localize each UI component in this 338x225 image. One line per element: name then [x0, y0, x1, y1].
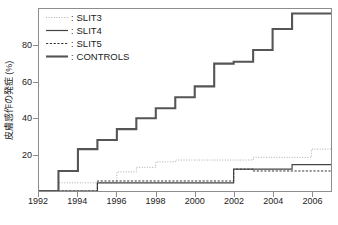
chart-legend: :SLIT3:SLIT4:SLIT5:CONTROLS — [46, 12, 129, 62]
legend-item-slit4[interactable]: :SLIT4 — [46, 25, 129, 36]
x-axis-tick-mark — [273, 192, 274, 197]
y-axis-tick-label: 40 — [10, 113, 32, 123]
x-axis-tick-mark — [195, 192, 196, 197]
x-axis-tick-label: 2004 — [255, 196, 291, 206]
legend-separator: : — [71, 52, 74, 62]
legend-label: SLIT3 — [77, 12, 102, 23]
legend-item-slit5[interactable]: :SLIT5 — [46, 38, 129, 49]
x-axis-tick-label: 2000 — [177, 196, 213, 206]
legend-label: SLIT5 — [77, 38, 102, 49]
x-axis-tick-mark — [116, 192, 117, 197]
legend-separator: : — [71, 39, 74, 49]
legend-item-slit3[interactable]: :SLIT3 — [46, 12, 129, 23]
legend-line-sample-icon — [46, 26, 68, 35]
y-axis-tick-label: 60 — [10, 77, 32, 87]
x-axis-tick-label: 1996 — [98, 196, 134, 206]
x-axis-tick-label: 1992 — [20, 196, 56, 206]
x-axis-tick-mark — [156, 192, 157, 197]
legend-label: SLIT4 — [77, 25, 102, 36]
chart-figure: 皮膚感作の発症 (%) 20406080 1992199419961998200… — [0, 0, 338, 225]
y-axis-tick-label: 20 — [10, 150, 32, 160]
legend-item-controls[interactable]: :CONTROLS — [46, 51, 129, 62]
series-line-slit3 — [39, 149, 331, 191]
legend-label: CONTROLS — [77, 51, 130, 62]
y-axis-tick-label: 80 — [10, 40, 32, 50]
y-axis-label-container: 皮膚感作の発症 (%) — [0, 0, 18, 200]
x-axis-tick-label: 1994 — [59, 196, 95, 206]
legend-line-sample-icon — [46, 13, 68, 22]
series-line-slit4 — [39, 165, 331, 191]
x-axis-tick-mark — [38, 192, 39, 197]
y-axis-label: 皮膚感作の発症 (%) — [3, 60, 16, 140]
legend-separator: : — [71, 13, 74, 23]
x-axis-tick-label: 2006 — [294, 196, 330, 206]
legend-line-sample-icon — [46, 52, 68, 61]
legend-separator: : — [71, 26, 74, 36]
x-axis-tick-label: 1998 — [138, 196, 174, 206]
x-axis-tick-mark — [77, 192, 78, 197]
x-axis-tick-mark — [234, 192, 235, 197]
legend-line-sample-icon — [46, 39, 68, 48]
x-axis-tick-label: 2002 — [216, 196, 252, 206]
x-axis-tick-mark — [312, 192, 313, 197]
series-line-slit5 — [39, 169, 331, 191]
